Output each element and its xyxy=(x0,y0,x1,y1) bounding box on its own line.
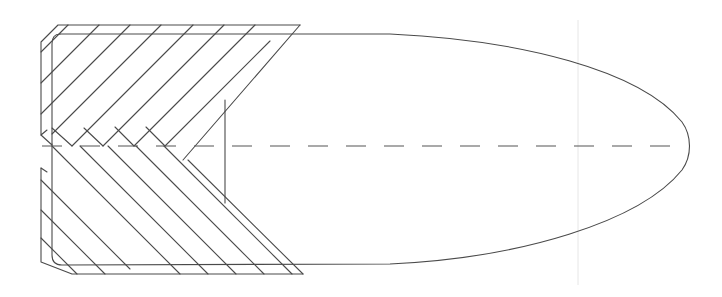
lower-hatching xyxy=(41,146,303,274)
diagram-canvas xyxy=(0,0,722,297)
jacket-outer-lower xyxy=(41,168,303,274)
body-outline xyxy=(52,34,690,265)
notch-line-upper xyxy=(41,135,52,145)
notch-line-lower xyxy=(41,168,47,172)
upper-hatching xyxy=(41,25,300,160)
jacket-outer-upper xyxy=(41,25,300,135)
projectile-drawing xyxy=(0,0,722,297)
